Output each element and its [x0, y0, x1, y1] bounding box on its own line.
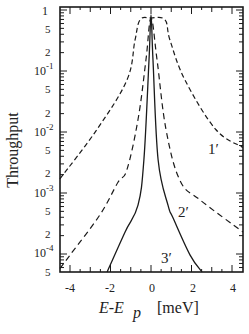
x-tick-labels: -4 -2 0 2 4	[65, 281, 236, 295]
x-tick-2: 2	[190, 281, 196, 295]
y-tick-5e-2: 5	[45, 83, 51, 95]
x-tick-neg2: -2	[105, 281, 115, 295]
x-axis-title-sub: p	[132, 304, 141, 322]
x-axis-title-main: E-E	[98, 299, 124, 316]
x-tick-0: 0	[149, 281, 155, 295]
x-axis-title: E-E p [meV]	[98, 299, 199, 322]
y-tick-5e-1: 5	[45, 23, 51, 35]
y-tick-2e-2: 2	[45, 107, 51, 119]
curve-label-1: 1′	[208, 141, 219, 157]
curve-label-2: 2′	[178, 204, 189, 220]
x-tick-neg4: -4	[65, 281, 75, 295]
y-axis-title: Throughput	[4, 112, 22, 188]
curve-3	[107, 15, 202, 272]
y-tick-labels: 1 5 2 10-1 5 2 10-2 5 2 10-3 5 2 10-4 5	[34, 4, 54, 278]
throughput-chart: 1 5 2 10-1 5 2 10-2 5 2 10-3 5 2 10-4 5 …	[0, 0, 249, 334]
y-tick-5e-3: 5	[45, 144, 51, 156]
y-tick-1e-2: 10-2	[34, 122, 54, 139]
x-axis-unit: [meV]	[157, 299, 199, 316]
y-tick-5e-5: 5	[45, 266, 51, 278]
y-tick-2e-4: 2	[45, 228, 51, 240]
y-tick-1e-1: 10-1	[34, 61, 54, 78]
curve-label-3: 3′	[161, 250, 172, 266]
y-tick-1e-3: 10-3	[34, 183, 54, 200]
y-tick-2e-1: 2	[45, 46, 51, 58]
y-tick-5e-4: 5	[45, 205, 51, 217]
x-tick-4: 4	[230, 281, 236, 295]
y-tick-1: 1	[42, 4, 48, 18]
y-tick-2e-3: 2	[45, 167, 51, 179]
y-tick-1e-4: 10-4	[34, 243, 54, 260]
